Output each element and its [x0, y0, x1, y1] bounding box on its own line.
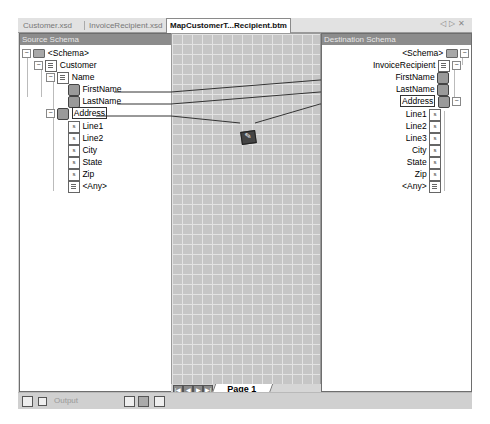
checkbox-icon[interactable]: [154, 396, 165, 407]
destination-schema-title: Destination Schema: [322, 34, 471, 45]
schema-folder-icon: [446, 49, 458, 58]
minimize-icon[interactable]: [38, 397, 47, 406]
any-doc-icon: [429, 181, 441, 193]
collapse-icon[interactable]: −: [460, 49, 469, 58]
tree-node-city[interactable]: City s: [412, 144, 441, 156]
collapse-icon[interactable]: −: [452, 97, 461, 106]
collapse-icon[interactable]: −: [452, 61, 461, 70]
tree-node-line2[interactable]: Line2 s: [406, 120, 441, 132]
tree-node-address[interactable]: Address −: [400, 95, 461, 107]
field-attribute-icon: s: [429, 133, 441, 145]
tree-node-firstname[interactable]: FirstName: [395, 71, 449, 83]
tree-node-schema[interactable]: <Schema> −: [402, 47, 469, 59]
field-attribute-icon: s: [429, 169, 441, 181]
field-attribute-icon: s: [429, 157, 441, 169]
output-status-bar: Output: [18, 392, 472, 409]
tree-node-lastname[interactable]: LastName: [396, 83, 449, 95]
field-attribute-icon: s: [429, 121, 441, 133]
tree-node-line3[interactable]: Line3 s: [406, 132, 441, 144]
find-icon[interactable]: [138, 396, 149, 407]
field-attribute-icon: s: [429, 109, 441, 121]
tree-node-invoicerecipient[interactable]: InvoiceRecipient −: [373, 59, 461, 71]
tree-node-state[interactable]: State s: [407, 156, 441, 168]
field-attribute-icon: s: [429, 145, 441, 157]
copy-document-icon[interactable]: [124, 396, 135, 407]
tree-node-any[interactable]: <Any>: [402, 180, 441, 192]
tree-node-line1[interactable]: Line1 s: [406, 108, 441, 120]
field-element-icon: [437, 84, 449, 96]
destination-schema-panel: Destination Schema <Schema> − InvoiceRec…: [321, 33, 472, 392]
window-icon[interactable]: [22, 396, 33, 407]
record-doc-icon: [438, 60, 450, 72]
field-element-icon: [438, 96, 450, 108]
tree-node-zip[interactable]: Zip s: [415, 168, 441, 180]
biztalk-mapper-window: Customer.xsd InvoiceRecipient.xsd MapCus…: [18, 18, 472, 408]
output-label[interactable]: Output: [54, 396, 78, 405]
field-element-icon: [437, 72, 449, 84]
